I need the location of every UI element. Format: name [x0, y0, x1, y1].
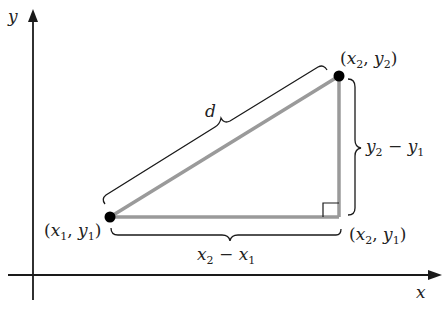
distance-diagram: y x (x1, y1) (x2, y2) (x2, y1) d x2 − x1… — [0, 0, 446, 313]
y-axis-arrow-icon — [28, 9, 38, 22]
point-x1-y1 — [105, 212, 116, 223]
y-axis-label: y — [8, 8, 18, 25]
point-label-x2-y1: (x2, y1) — [349, 226, 406, 246]
right-triangle — [110, 76, 339, 217]
point-label-x1-y1: (x1, y1) — [44, 222, 101, 242]
x-axis — [8, 270, 442, 280]
point-label-x2-y2: (x2, y2) — [340, 50, 397, 70]
vertical-brace-icon — [348, 79, 361, 215]
right-angle-marker-icon — [323, 203, 339, 217]
x-axis-label: x — [416, 284, 426, 301]
horizontal-length-label: x2 − x1 — [197, 246, 255, 266]
point-x2-y2 — [334, 71, 345, 82]
y-axis — [28, 9, 38, 300]
x-axis-arrow-icon — [428, 270, 442, 280]
horizontal-brace-icon — [111, 228, 341, 241]
hypotenuse-label-d: d — [205, 103, 216, 120]
vertical-length-label: y2 − y1 — [366, 138, 424, 158]
hypotenuse — [110, 76, 339, 217]
hypotenuse-brace-icon — [103, 66, 327, 204]
